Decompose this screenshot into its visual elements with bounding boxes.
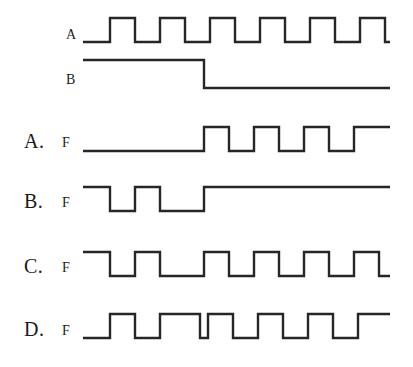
waveform-path-option-d	[83, 314, 390, 338]
waveform-figure: A B A. F B. F C. F D. F	[0, 0, 413, 367]
waveform-svg-option-d	[0, 0, 413, 367]
